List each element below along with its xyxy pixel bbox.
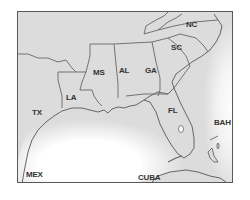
label-mexico: MEX <box>26 171 43 179</box>
label-florida: FL <box>168 107 177 115</box>
map-canvas <box>18 12 233 183</box>
label-georgia: GA <box>145 67 157 75</box>
label-louisiana: LA <box>66 94 76 102</box>
map-frame: NC SC GA AL MS LA TX FL BAH MEX CUBA <box>17 11 233 183</box>
label-mississippi: MS <box>93 69 105 77</box>
label-texas: TX <box>32 109 42 117</box>
label-south-carolina: SC <box>171 44 182 52</box>
label-alabama: AL <box>119 67 129 75</box>
label-north-carolina: NC <box>186 21 197 29</box>
label-bahamas: BAH <box>214 119 231 127</box>
label-cuba: CUBA <box>138 174 160 182</box>
lake-okeechobee <box>179 126 184 133</box>
